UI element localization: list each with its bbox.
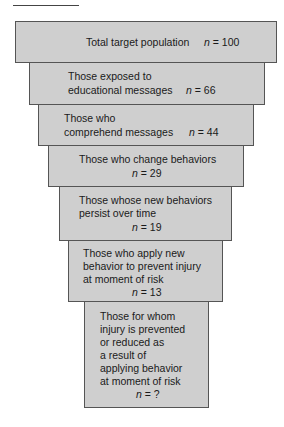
stage-label-line-6: at moment of risk: [100, 375, 181, 388]
stage-label-line-3: at moment of risk: [83, 273, 164, 286]
stage-label-line-1: Those whose new behaviors: [79, 194, 212, 207]
stage-label-line-2: behavior to prevent injury: [83, 260, 201, 273]
stage-label-line-1: Those exposed to: [68, 70, 151, 83]
funnel-stage-injury-prevented: Those for whom injury is prevented or re…: [84, 301, 209, 408]
stage-label-line-2: persist over time: [79, 207, 156, 220]
stage-count: n = 100: [204, 36, 239, 49]
stage-label: Total target population: [86, 36, 189, 49]
stage-count: n = 66: [186, 84, 216, 97]
stage-label-line-1: Those for whom: [100, 310, 175, 323]
stage-label: Those who change behaviors: [79, 153, 216, 166]
stage-label-line-2: comprehend messages: [64, 126, 173, 139]
funnel-stage-total-population: Total target population n = 100: [15, 21, 277, 63]
funnel-stage-change-behaviors: Those who change behaviors n = 29: [48, 145, 244, 187]
stage-count: n = ?: [136, 388, 160, 401]
stage-count: n = 29: [132, 167, 162, 180]
stage-label-line-1: Those who apply new: [83, 247, 185, 260]
stage-count: n = 44: [189, 126, 219, 139]
stage-label-line-2: educational messages: [68, 84, 172, 97]
stage-label-line-3: or reduced as: [100, 336, 164, 349]
stage-count: n = 19: [132, 221, 162, 234]
funnel-stage-persist: Those whose new behaviors persist over t…: [59, 186, 232, 241]
funnel-stage-apply-behavior: Those who apply new behavior to prevent …: [68, 240, 223, 302]
stage-label-line-5: applying behavior: [100, 362, 182, 375]
header-rule: [13, 5, 79, 6]
stage-label-line-2: injury is prevented: [100, 323, 185, 336]
funnel-stage-exposed: Those exposed to educational messages n …: [29, 62, 265, 105]
stage-count: n = 13: [132, 286, 162, 299]
stage-label-line-1: Those who: [64, 112, 115, 125]
stage-label-line-4: a result of: [100, 349, 146, 362]
funnel-stage-comprehend: Those who comprehend messages n = 44: [38, 104, 254, 146]
